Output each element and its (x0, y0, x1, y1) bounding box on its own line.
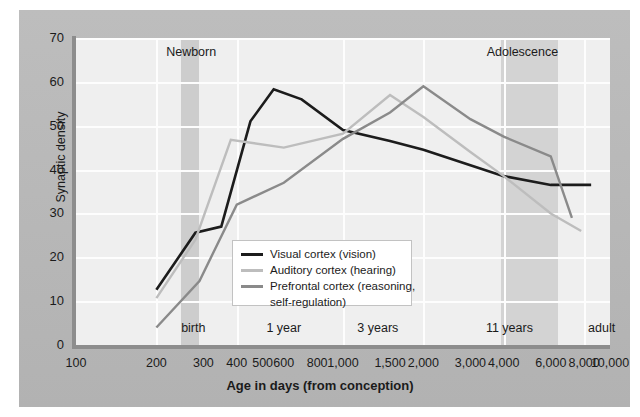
legend-item-label: Auditory cortex (hearing) (270, 263, 396, 277)
x-tick-label: 100 (66, 356, 87, 370)
x-axis-title: Age in days (from conception) (0, 378, 640, 393)
x-tick-label: 4,000 (488, 356, 519, 370)
x-axis-line (72, 345, 610, 349)
legend-swatch-icon (241, 253, 263, 256)
x-tick-label: 1,500 (374, 356, 405, 370)
legend-item-label: Visual cortex (vision) (270, 247, 376, 261)
y-tick-label: 20 (30, 249, 64, 264)
y-axis-line (72, 36, 76, 347)
legend-box: Visual cortex (vision) Auditory cortex (… (232, 240, 412, 306)
x-tick-label: 600 (273, 356, 294, 370)
chart-figure: 010203040506070 1002003004005006008001,0… (0, 0, 640, 417)
x-tick-label: 400 (226, 356, 247, 370)
x-tick-label: 500 (252, 356, 273, 370)
x-tick-label: 200 (146, 356, 167, 370)
y-tick-label: 70 (30, 30, 64, 45)
x-tick-label: 3,000 (455, 356, 486, 370)
y-tick-label: 0 (30, 337, 64, 352)
x-tick-label: 300 (193, 356, 214, 370)
annotation-top-adolescence: Adolescence (487, 45, 559, 59)
annotation-bottom-11-years: 11 years (486, 321, 533, 335)
legend-swatch-icon (241, 269, 263, 272)
legend-item-label: Prefrontal cortex (reasoning, (270, 279, 415, 293)
x-tick-label: 1,000 (327, 356, 358, 370)
legend-item: Prefrontal cortex (reasoning, (241, 279, 403, 294)
x-tick-label: 2,000 (408, 356, 439, 370)
legend-swatch-icon (241, 285, 263, 288)
annotation-top-newborn: Newborn (166, 45, 216, 59)
y-axis-title: Synaptic density (54, 82, 68, 232)
x-tick-label: 10,000 (591, 356, 629, 370)
annotation-bottom-birth: birth (181, 321, 205, 335)
legend-item: Auditory cortex (hearing) (241, 263, 403, 278)
legend-item: Visual cortex (vision) (241, 247, 403, 262)
legend-item-label-continuation: self-regulation) (270, 295, 403, 309)
annotation-bottom-1-year: 1 year (266, 321, 301, 335)
annotation-bottom-adult: adult (588, 321, 615, 335)
annotation-bottom-3-years: 3 years (357, 321, 398, 335)
x-tick-label: 6,000 (535, 356, 566, 370)
y-tick-label: 10 (30, 293, 64, 308)
x-tick-label: 800 (307, 356, 328, 370)
